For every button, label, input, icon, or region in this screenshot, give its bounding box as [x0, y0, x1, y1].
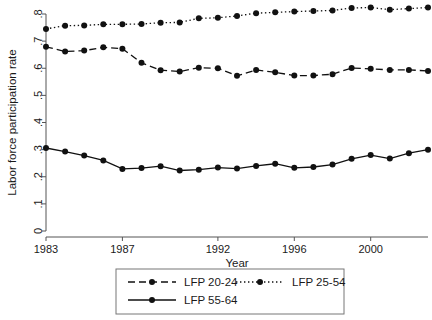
x-tick-label: 2000 — [358, 243, 382, 255]
x-axis-ticks: 19831987199219962000 — [34, 237, 383, 255]
data-point — [100, 157, 106, 163]
data-point — [119, 166, 125, 172]
data-point — [272, 69, 278, 75]
data-point — [119, 46, 125, 52]
y-tick-label: .4 — [32, 118, 44, 127]
data-point — [387, 67, 393, 73]
legend-marker — [149, 279, 155, 285]
data-point — [81, 22, 87, 28]
data-point — [62, 149, 68, 155]
x-tick-label: 1983 — [34, 243, 58, 255]
data-point — [234, 13, 240, 19]
y-axis: 0.1.2.3.4.5.6.7.8 Labor force participat… — [6, 9, 46, 234]
x-tick-label: 1987 — [110, 243, 134, 255]
data-point — [196, 65, 202, 71]
y-tick-label: .8 — [32, 9, 44, 18]
data-point — [158, 67, 164, 73]
data-point — [253, 67, 259, 73]
data-point — [177, 168, 183, 174]
data-point — [139, 165, 145, 171]
legend-label: LFP 20-24 — [184, 276, 238, 288]
data-point — [368, 66, 374, 72]
data-point — [43, 26, 49, 32]
data-point — [253, 10, 259, 16]
data-point — [291, 165, 297, 171]
data-point — [330, 71, 336, 77]
data-point — [215, 165, 221, 171]
legend-marker — [149, 297, 155, 303]
data-point — [387, 156, 393, 162]
data-point — [272, 9, 278, 15]
data-point — [43, 44, 49, 50]
data-point — [387, 7, 393, 13]
data-point — [177, 19, 183, 25]
y-axis-ticks: 0.1.2.3.4.5.6.7.8 — [32, 9, 46, 234]
data-point — [310, 8, 316, 14]
legend-label: LFP 55-64 — [184, 294, 238, 306]
data-point — [291, 73, 297, 79]
x-axis-title: Year — [225, 257, 248, 269]
data-point — [406, 150, 412, 156]
series-lfp-20-24 — [43, 44, 431, 79]
data-point — [425, 68, 431, 74]
legend-marker — [257, 279, 263, 285]
data-point — [215, 15, 221, 21]
x-axis: 19831987199219962000 Year — [34, 237, 428, 269]
y-tick-label: .1 — [32, 199, 44, 208]
series-lfp-25-54 — [43, 4, 431, 31]
y-axis-title: Labor force participation rate — [6, 49, 18, 195]
data-point — [368, 152, 374, 158]
data-point — [253, 163, 259, 169]
data-point — [368, 4, 374, 10]
y-tick-label: .7 — [32, 37, 44, 46]
data-point — [215, 65, 221, 71]
x-tick-label: 1992 — [206, 243, 230, 255]
y-tick-label: .5 — [32, 91, 44, 100]
data-point — [330, 7, 336, 13]
data-point — [330, 162, 336, 168]
data-point — [139, 21, 145, 27]
data-point — [425, 4, 431, 10]
data-point — [291, 9, 297, 15]
data-point — [349, 65, 355, 71]
y-tick-label: 0 — [32, 228, 44, 234]
data-point — [196, 15, 202, 21]
data-point — [196, 167, 202, 173]
series-lfp-55-64 — [43, 145, 431, 174]
data-point — [272, 161, 278, 167]
y-tick-label: .2 — [32, 172, 44, 181]
data-point — [310, 164, 316, 170]
y-tick-label: .6 — [32, 64, 44, 73]
chart-legend: LFP 20-24LFP 25-54LFP 55-64 — [116, 269, 346, 314]
data-point — [349, 5, 355, 11]
data-point — [234, 73, 240, 79]
data-point — [43, 145, 49, 151]
x-tick-label: 1996 — [282, 243, 306, 255]
data-point — [310, 73, 316, 79]
data-point — [406, 6, 412, 12]
data-point — [177, 69, 183, 75]
data-point — [158, 20, 164, 26]
data-point — [158, 163, 164, 169]
data-point — [100, 21, 106, 27]
data-point — [406, 67, 412, 73]
data-point — [62, 23, 68, 29]
data-point — [100, 44, 106, 50]
data-point — [425, 147, 431, 153]
chart-figure: 0.1.2.3.4.5.6.7.8 Labor force participat… — [0, 0, 432, 320]
labor-force-participation-line-chart: 0.1.2.3.4.5.6.7.8 Labor force participat… — [0, 0, 432, 320]
y-tick-label: .3 — [32, 145, 44, 154]
data-point — [62, 48, 68, 54]
legend-label: LFP 25-54 — [292, 276, 346, 288]
data-point — [234, 166, 240, 172]
data-point — [119, 21, 125, 27]
data-series-group — [43, 4, 431, 173]
data-point — [349, 156, 355, 162]
data-point — [81, 153, 87, 159]
data-point — [139, 60, 145, 66]
data-point — [81, 48, 87, 54]
